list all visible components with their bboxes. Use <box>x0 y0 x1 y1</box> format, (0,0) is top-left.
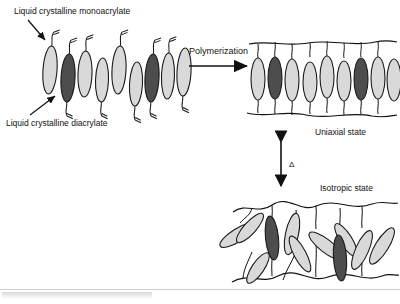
caption-cropped-text <box>2 292 152 299</box>
mesogen-monoacrylate <box>387 59 400 101</box>
mesogen-monoacrylate <box>285 59 299 101</box>
caption-divider <box>0 289 400 290</box>
mesogen-monoacrylate <box>320 56 334 98</box>
label-monoacrylate: Liquid crystalline monoacrylate <box>14 6 130 16</box>
mesogen-monoacrylate <box>337 61 351 101</box>
mesogen-diacrylate <box>268 57 282 99</box>
mesogen-monoacrylate <box>251 58 265 100</box>
label-uniaxial-state: Uniaxial state <box>315 127 366 137</box>
label-delta-symbol: Δ <box>289 160 294 170</box>
mesogen-diacrylate <box>354 58 368 100</box>
label-polymerization: Polymerization <box>189 46 248 56</box>
mesogen-monoacrylate <box>303 62 317 102</box>
mesogen-monoacrylate <box>371 57 385 99</box>
label-diacrylate: Liquid crystalline diacrylate <box>6 118 108 128</box>
label-isotropic-state: Isotropic state <box>320 183 373 193</box>
